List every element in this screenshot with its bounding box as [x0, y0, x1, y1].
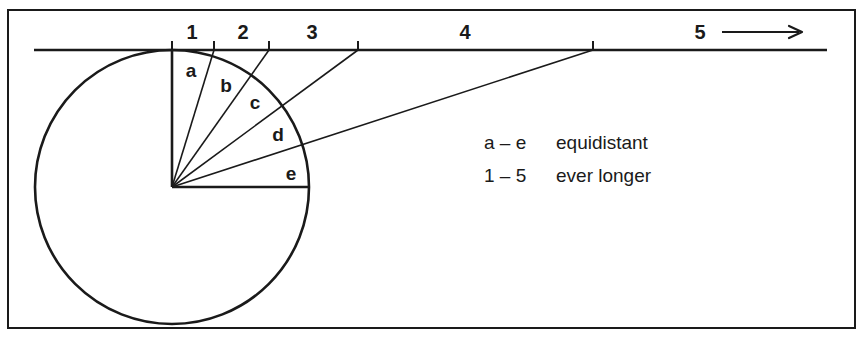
legend-key-2: 1 – 5 [484, 165, 556, 187]
tick-number-1: 1 [186, 22, 197, 42]
sector-letter-b: b [220, 76, 232, 95]
sector-letter-a: a [186, 61, 197, 80]
legend-row-1: a – eequidistant [484, 132, 648, 154]
legend-row-2: 1 – 5ever longer [484, 165, 651, 187]
direction-arrow-icon [722, 26, 802, 38]
sector-letter-e: e [286, 164, 297, 183]
diagram-canvas [0, 0, 865, 338]
sector-letter-c: c [250, 93, 261, 112]
legend-value-2: ever longer [556, 165, 651, 187]
radius-line-d [172, 50, 358, 187]
frame-border [8, 10, 855, 328]
tick-number-4: 4 [459, 22, 470, 42]
tick-number-5: 5 [694, 22, 705, 42]
tick-number-2: 2 [237, 22, 248, 42]
tick-number-3: 3 [306, 22, 317, 42]
figure-root: 12345 abcde a – eequidistant1 – 5ever lo… [0, 0, 865, 338]
frame-rect [8, 10, 855, 328]
sector-letter-d: d [272, 125, 284, 144]
legend-value-1: equidistant [556, 132, 648, 154]
legend-key-1: a – e [484, 132, 556, 154]
